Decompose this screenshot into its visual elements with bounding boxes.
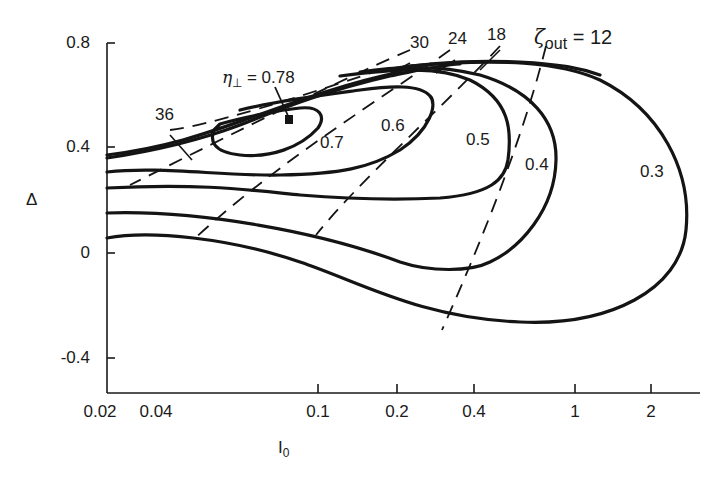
x-tick-0.2: 0.2 (372, 402, 422, 422)
eta-max-label: η⊥ = 0.78 (222, 67, 295, 90)
zeta-label-24: 24 (448, 29, 467, 49)
contour-label-0.3: 0.3 (640, 162, 664, 182)
zeta-label-30: 30 (410, 33, 429, 53)
contour-label-0.5: 0.5 (466, 130, 490, 150)
x-tick-0.04: 0.04 (131, 402, 181, 422)
y-tick-0.8: 0.8 (30, 33, 90, 53)
y-tick-0.4: 0.4 (30, 137, 90, 157)
x-tick-0.1: 0.1 (293, 402, 343, 422)
y-tick-0: 0 (30, 243, 90, 263)
y-axis-label: Δ (26, 190, 37, 210)
x-tick-1: 1 (550, 402, 600, 422)
zeta-12 (442, 46, 546, 330)
zeta-label-12: ζout = 12 (534, 25, 612, 53)
zeta-label-18: 18 (487, 25, 506, 45)
contour-0.5 (107, 70, 509, 199)
contour-label-0.4: 0.4 (525, 155, 549, 175)
contour-label-0.6: 0.6 (381, 116, 405, 136)
contour-0.3 (107, 62, 687, 322)
contour-label-0.7: 0.7 (320, 133, 344, 153)
y-tick-neg-0.4: -0.4 (30, 348, 90, 368)
x-tick-0.02: 0.02 (75, 402, 125, 422)
contour-0.4 (107, 67, 556, 269)
x-tick-2: 2 (626, 402, 676, 422)
efficiency-contours (107, 61, 687, 322)
x-axis-label: I0 (278, 438, 289, 460)
x-tick-0.4: 0.4 (449, 402, 499, 422)
zeta-label-36: 36 (155, 105, 174, 125)
